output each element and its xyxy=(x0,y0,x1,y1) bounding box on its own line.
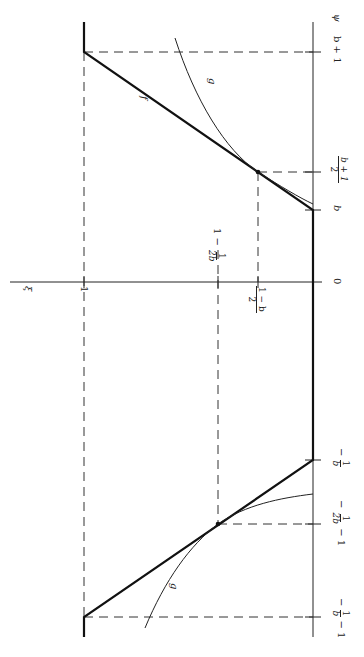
tick-label-neg-inv-b-minus-1: − 1b − 1 xyxy=(331,598,350,638)
tick-label-one-minus-inv-2b: 1 − 12b xyxy=(207,228,226,263)
curve-g-lower xyxy=(145,494,313,628)
tick-label-xi-one: 1 xyxy=(79,286,90,292)
dashed-guides xyxy=(84,52,313,617)
tick-label-neg-inv-2b-minus-1: − 12b − 1 xyxy=(331,500,350,546)
tangent-point-lower xyxy=(216,522,221,527)
tangent-point-upper xyxy=(256,170,261,175)
curve-f xyxy=(84,22,313,637)
tick-label-b-plus-1: b + 1 xyxy=(332,36,343,64)
curve-g-upper xyxy=(175,38,313,204)
tick-label-b: b xyxy=(332,205,343,211)
tick-label-zero: 0 xyxy=(332,278,343,284)
psi-axis-label: ψ xyxy=(332,14,343,22)
diagram-canvas xyxy=(0,0,364,657)
tick-label-neg-inv-b: − 1b xyxy=(331,448,350,467)
xi-axis-label: ξ xyxy=(23,286,34,292)
curve-label-f: f xyxy=(139,96,150,100)
curve-label-g-lower: g xyxy=(169,583,180,589)
tick-label-b-plus-1-over-2: b + 12 xyxy=(329,156,348,183)
tick-label-one-minus-b-over-2: 1 − b2 xyxy=(247,286,266,313)
curve-label-g-upper: g xyxy=(207,78,218,84)
